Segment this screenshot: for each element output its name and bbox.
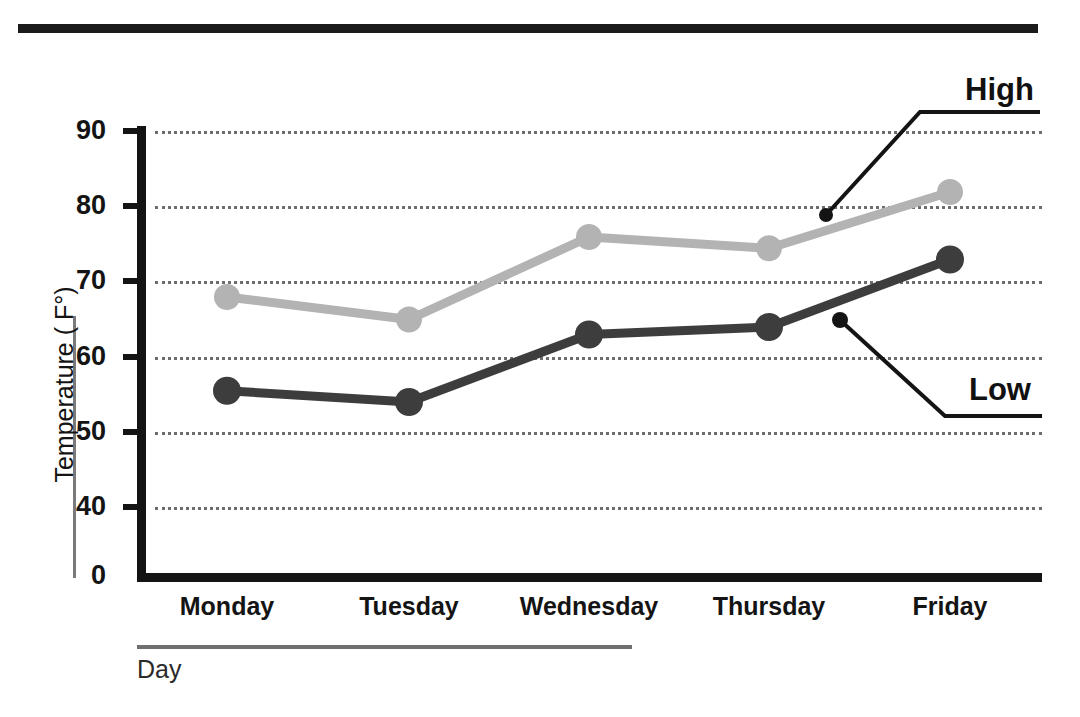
callout-anchor-low <box>832 312 848 328</box>
data-point-high-tuesday <box>396 307 422 333</box>
data-point-low-monday <box>213 377 241 405</box>
data-point-high-thursday <box>756 235 782 261</box>
data-point-low-thursday <box>755 313 783 341</box>
data-point-high-monday <box>214 284 240 310</box>
plot-area: 90 80 70 60 50 40 0 Temperature ( F°) Mo… <box>0 0 1080 717</box>
data-point-low-friday <box>936 246 964 274</box>
data-point-high-friday <box>937 179 963 205</box>
callout-label-high: High <box>965 72 1034 108</box>
data-point-high-wednesday <box>576 224 602 250</box>
series-layer <box>0 0 1080 717</box>
data-point-low-wednesday <box>575 321 603 349</box>
callout-anchor-high <box>819 208 833 222</box>
chart-canvas: Daily Temperatures 90 80 70 60 50 40 0 T… <box>0 0 1080 717</box>
callout-label-low: Low <box>969 372 1031 408</box>
data-point-low-tuesday <box>395 388 423 416</box>
